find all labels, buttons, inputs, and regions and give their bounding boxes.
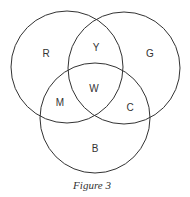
region-label-c: C — [126, 102, 133, 113]
circle-red — [11, 11, 123, 123]
region-label-m: M — [56, 97, 64, 108]
figure-caption: Figure 3 — [72, 179, 111, 191]
region-label-b: B — [92, 143, 99, 154]
region-label-g: G — [146, 48, 154, 59]
region-label-w: W — [89, 83, 99, 94]
venn-diagram: R Y G W M C B Figure 3 — [0, 0, 190, 197]
circle-blue — [40, 63, 150, 173]
region-label-y: Y — [93, 42, 100, 53]
region-label-r: R — [42, 48, 49, 59]
circle-green — [68, 12, 180, 124]
